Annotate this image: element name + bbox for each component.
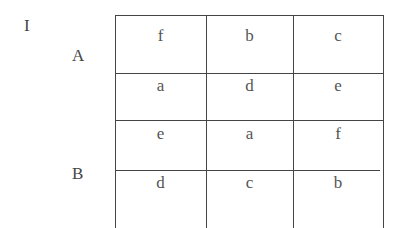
grid-cell: b — [293, 173, 383, 193]
grid-cell: c — [206, 173, 293, 193]
grid-cell: c — [293, 26, 383, 46]
grid-cell: d — [206, 76, 293, 96]
grid-line — [115, 15, 383, 16]
grid-cell: e — [115, 124, 206, 144]
grid-cell: a — [115, 76, 206, 96]
grid-line — [383, 15, 384, 228]
group-label-b: B — [72, 164, 83, 184]
grid-cell: d — [115, 173, 206, 193]
grid-line — [115, 15, 116, 228]
grid-line — [115, 170, 380, 171]
figure-label: I — [24, 16, 30, 36]
grid-cell: e — [293, 76, 383, 96]
grid-cell: f — [115, 26, 206, 46]
group-label-a: A — [72, 46, 84, 66]
grid-cell: f — [293, 124, 383, 144]
grid-line — [115, 120, 383, 121]
grid-line — [206, 15, 207, 228]
grid-line — [115, 73, 383, 74]
grid-cell: a — [206, 124, 293, 144]
grid-cell: b — [206, 26, 293, 46]
grid-line — [293, 15, 294, 228]
